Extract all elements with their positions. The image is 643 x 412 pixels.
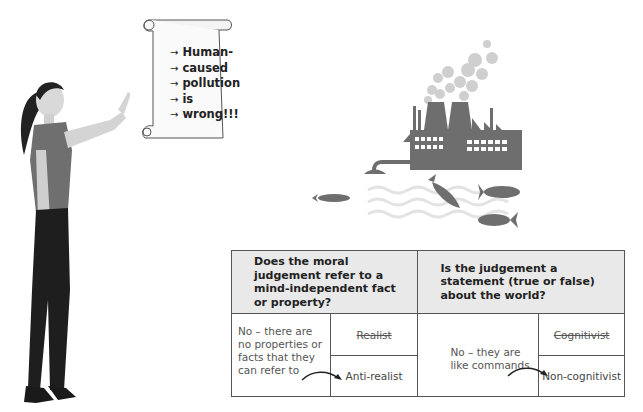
result-non-cognitivist-cell: Non-cognitivist [539, 356, 625, 397]
header-statement-question: Is the judgement a statement (true or fa… [418, 251, 625, 314]
rejected-cognitivist-cell: Cognitivist [539, 314, 625, 356]
woman-pointing-illustration [10, 70, 130, 410]
arrow-bullet-icon: → [170, 63, 178, 74]
col2-answer-cell: No – they are like commands [418, 314, 539, 397]
scroll-line: →wrong!!! [170, 107, 240, 123]
scroll-line: →caused [170, 61, 240, 77]
rejected-realist-cell: Realist [330, 314, 418, 356]
smoke-icon [424, 40, 498, 110]
curved-arrow-icon [300, 368, 344, 382]
header-mind-independent-question: Does the moral judgement refer to a mind… [232, 251, 418, 314]
arrow-bullet-icon: → [170, 47, 178, 58]
factory-pollution-illustration [300, 30, 540, 240]
arrow-bullet-icon: → [170, 78, 178, 89]
moral-judgement-table: Does the moral judgement refer to a mind… [231, 250, 625, 397]
col1-answer-cell: No – there are no properties or facts th… [232, 314, 331, 397]
curved-arrow-icon [506, 364, 550, 378]
arrow-bullet-icon: → [170, 94, 178, 105]
scroll-line: →is [170, 92, 240, 108]
scroll-statement: →Human- →caused →pollution →is →wrong!!! [170, 45, 240, 123]
scroll-line: →Human- [170, 45, 240, 61]
scroll-line: →pollution [170, 76, 240, 92]
arrow-bullet-icon: → [170, 109, 178, 120]
